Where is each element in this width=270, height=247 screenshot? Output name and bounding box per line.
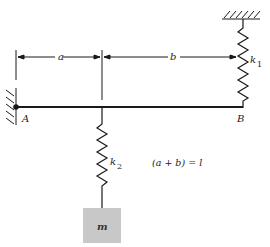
spring-k1 bbox=[238, 19, 248, 108]
pin-a bbox=[13, 104, 19, 110]
dimension-lines bbox=[16, 50, 236, 100]
dimension-b-label: b bbox=[170, 51, 176, 62]
point-a-label: A bbox=[21, 113, 29, 124]
mass-label: m bbox=[97, 221, 108, 232]
spring-k1-label: k bbox=[250, 54, 256, 65]
spring-k2-label: k bbox=[110, 156, 116, 167]
ceiling-support bbox=[222, 11, 260, 19]
dimension-a-label: a bbox=[58, 51, 64, 62]
spring-k2 bbox=[97, 107, 107, 208]
diagram-canvas: a b k 1 A B k 2 (a + b) = l m bbox=[0, 0, 270, 247]
spring-k2-subscript: 2 bbox=[117, 162, 122, 171]
point-b-label: B bbox=[236, 113, 244, 124]
length-relation: (a + b) = l bbox=[152, 157, 202, 168]
spring-k1-subscript: 1 bbox=[257, 60, 262, 69]
